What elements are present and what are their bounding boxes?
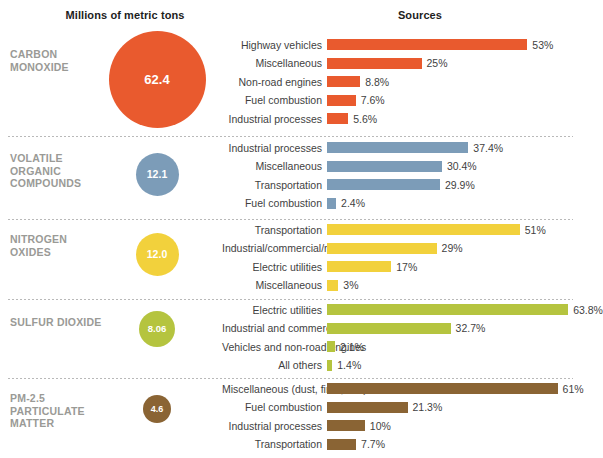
- source-label: Vehicles and non-road engines: [222, 341, 327, 353]
- source-bar-item: Non-road engines8.8%: [222, 74, 574, 89]
- source-bar: [327, 39, 527, 50]
- source-bar-value: 53%: [532, 39, 553, 51]
- pollutant-name: CARBON MONOXIDE: [10, 48, 102, 73]
- pollutant-total-bubble: 12.0: [136, 233, 179, 276]
- source-bar-value: 3%: [343, 279, 358, 291]
- row-divider: [8, 299, 573, 300]
- source-bar-item: Fuel combustion7.6%: [222, 93, 574, 108]
- source-bar-track: 25%: [327, 56, 574, 71]
- source-bar-list: Transportation51%Industrial/commercial/r…: [222, 222, 574, 296]
- source-bar: [327, 58, 422, 69]
- source-bar: [327, 76, 360, 87]
- source-bar: [327, 161, 442, 172]
- source-bar-item: Transportation7.7%: [222, 437, 574, 452]
- source-label: Fuel combustion: [222, 401, 327, 413]
- source-bar: [327, 224, 520, 235]
- pollutant-total-value: 12.1: [147, 169, 167, 180]
- row-divider: [8, 378, 573, 379]
- pollutant-total-bubble: 4.6: [143, 395, 171, 423]
- source-bar: [327, 383, 558, 394]
- source-bar-list: Industrial processes37.4%Miscellaneous30…: [222, 140, 574, 214]
- source-label: Non-road engines: [222, 76, 327, 88]
- source-bar-value: 7.6%: [361, 94, 385, 106]
- source-bar: [327, 439, 356, 450]
- source-bar-track: 29%: [327, 241, 574, 256]
- row-divider: [8, 219, 573, 220]
- source-bar-item: Industrial processes10%: [222, 418, 574, 433]
- source-bar-track: 7.7%: [327, 437, 574, 452]
- source-bar-track: 10%: [327, 418, 574, 433]
- source-bar-item: Industrial/commercial/residential29%: [222, 241, 574, 256]
- source-bar-track: 2.4%: [327, 196, 574, 211]
- pollutant-row: SULFUR DIOXIDE8.06Electric utilities63.8…: [0, 299, 579, 378]
- source-bar: [327, 261, 391, 272]
- source-bar-item: Electric utilities17%: [222, 259, 574, 274]
- source-bar-value: 37.4%: [473, 142, 503, 154]
- source-label: Miscellaneous (dust, fires, etc.): [222, 383, 327, 395]
- pollutant-name: VOLATILE ORGANIC COMPOUNDS: [10, 152, 102, 190]
- source-bar-track: 29.9%: [327, 177, 574, 192]
- source-label: Industrial processes: [222, 142, 327, 154]
- source-bar-item: Industrial processes5.6%: [222, 111, 574, 126]
- source-bar-track: 53%: [327, 37, 574, 52]
- source-bar-value: 1.4%: [337, 359, 361, 371]
- source-label: Industrial and commercial facilities: [222, 322, 327, 334]
- source-bar: [327, 198, 336, 209]
- source-bar-value: 30.4%: [447, 160, 477, 172]
- source-label: Miscellaneous: [222, 160, 327, 172]
- source-label: Fuel combustion: [222, 197, 327, 209]
- pollutant-row: NITROGEN OXIDES12.0Transportation51%Indu…: [0, 219, 579, 299]
- source-label: Transportation: [222, 224, 327, 236]
- source-bar-track: 32.7%: [327, 321, 574, 336]
- source-bar-item: Fuel combustion2.4%: [222, 196, 574, 211]
- source-bar-value: 21.3%: [413, 401, 443, 413]
- source-bar-value: 10%: [370, 420, 391, 432]
- source-bar: [327, 243, 437, 254]
- source-bar-track: 30.4%: [327, 159, 574, 174]
- pollutant-total-value: 4.6: [151, 405, 164, 414]
- row-divider: [8, 136, 573, 137]
- source-bar-track: 7.6%: [327, 93, 574, 108]
- source-bar: [327, 323, 451, 334]
- pollutant-total-bubble: 12.1: [136, 153, 179, 196]
- source-bar-track: 51%: [327, 222, 574, 237]
- source-bar-value: 2.4%: [341, 197, 365, 209]
- source-bar-item: Industrial processes37.4%: [222, 140, 574, 155]
- source-bar: [327, 113, 348, 124]
- pollutant-total-bubble: 62.4: [109, 31, 206, 128]
- pollutant-row: CARBON MONOXIDE62.4Highway vehicles53%Mi…: [0, 27, 579, 136]
- source-bar-track: 2.1%: [327, 339, 574, 354]
- source-bar-list: Miscellaneous (dust, fires, etc.)61%Fuel…: [222, 381, 574, 455]
- source-label: Highway vehicles: [222, 39, 327, 51]
- pollutant-name: SULFUR DIOXIDE: [10, 316, 102, 329]
- source-bar: [327, 341, 335, 352]
- pollutant-total-value: 12.0: [147, 249, 167, 260]
- source-bar-value: 8.8%: [365, 76, 389, 88]
- column-header-millions-of-metric-tons: Millions of metric tons: [25, 9, 225, 21]
- source-bar-item: Miscellaneous30.4%: [222, 159, 574, 174]
- source-bar-list: Electric utilities63.8%Industrial and co…: [222, 302, 574, 376]
- source-label: All others: [222, 359, 327, 371]
- source-bar-item: Miscellaneous (dust, fires, etc.)61%: [222, 381, 574, 396]
- source-label: Transportation: [222, 438, 327, 450]
- source-bar-value: 51%: [525, 224, 546, 236]
- source-bar-item: Transportation29.9%: [222, 177, 574, 192]
- source-bar-item: All others1.4%: [222, 358, 574, 373]
- source-bar-value: 29%: [442, 242, 463, 254]
- source-bar-track: 37.4%: [327, 140, 574, 155]
- source-bar: [327, 280, 338, 291]
- source-bar-value: 63.8%: [573, 304, 603, 316]
- pollutant-total-value: 8.06: [148, 324, 167, 334]
- source-bar-track: 63.8%: [327, 302, 603, 317]
- source-label: Industrial processes: [222, 420, 327, 432]
- source-bar-item: Fuel combustion21.3%: [222, 400, 574, 415]
- source-bar-value: 2.1%: [340, 341, 364, 353]
- pollutant-name: NITROGEN OXIDES: [10, 233, 102, 258]
- pollutant-row: VOLATILE ORGANIC COMPOUNDS12.1Industrial…: [0, 136, 579, 219]
- source-label: Miscellaneous: [222, 279, 327, 291]
- pollutant-name: PM-2.5 PARTICULATE MATTER: [10, 392, 102, 430]
- source-bar-item: Miscellaneous25%: [222, 56, 574, 71]
- source-label: Electric utilities: [222, 304, 327, 316]
- source-bar-track: 8.8%: [327, 74, 574, 89]
- source-bar-track: 1.4%: [327, 358, 574, 373]
